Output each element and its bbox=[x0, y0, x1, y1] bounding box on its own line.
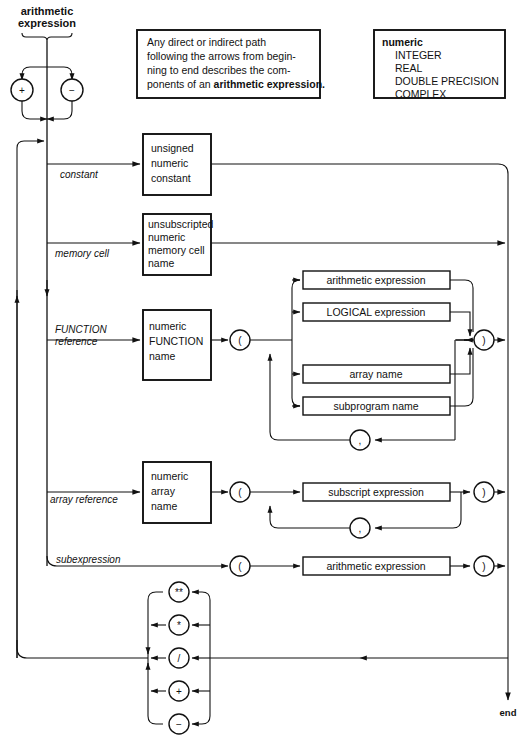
header-group: arithmetic expression bbox=[18, 5, 76, 41]
memory-cell-box-line-3: memory cell bbox=[148, 244, 205, 256]
note-line-4: ponents of an arithmetic expression. bbox=[147, 78, 325, 90]
branch-array-reference: array reference numeric array name ( sub… bbox=[47, 462, 505, 538]
memory-cell-branch-label: memory cell bbox=[55, 248, 110, 259]
memory-cell-box-line-2: numeric bbox=[148, 231, 185, 243]
note-line-2: following the arrows from begin- bbox=[147, 50, 296, 62]
constant-box-line-3: constant bbox=[151, 172, 191, 184]
function-box-line-3: name bbox=[149, 350, 175, 362]
branch-memory-cell: memory cell unsubscripted numeric memory… bbox=[47, 214, 505, 275]
sign-minus-label: − bbox=[69, 85, 75, 96]
note-box: Any direct or indirect path following th… bbox=[137, 30, 325, 98]
array-comma-loop-back bbox=[270, 506, 350, 528]
legend-item-integer: INTEGER bbox=[395, 49, 442, 61]
sign-minus-in-line bbox=[47, 67, 72, 80]
function-branch-label-line1: FUNCTION bbox=[55, 324, 107, 335]
sign-minus-out-line bbox=[47, 101, 72, 119]
subexpression-arithmetic-expression-label: arithmetic expression bbox=[326, 560, 425, 572]
array-box-line-3: name bbox=[151, 500, 177, 512]
sign-plus-in-line bbox=[22, 67, 47, 80]
function-box-line-1: numeric bbox=[149, 320, 186, 332]
operator-bus-bottom-left-curve bbox=[148, 716, 163, 724]
feedback-entry-arrow bbox=[17, 141, 44, 148]
function-arg-label-logical-expression: LOGICAL expression bbox=[327, 306, 426, 318]
note-line-4-plain: ponents of an bbox=[147, 78, 214, 90]
constant-branch-label: constant bbox=[60, 169, 99, 180]
subscript-expression-label: subscript expression bbox=[328, 486, 424, 498]
operator-multiply-label: * bbox=[177, 620, 181, 631]
operator-divide-label: / bbox=[178, 653, 181, 664]
sign-plus-out-line bbox=[22, 101, 47, 119]
branch-constant: constant unsigned numeric constant bbox=[47, 134, 508, 195]
end-group: end bbox=[500, 658, 517, 718]
function-arg-bus-up bbox=[292, 280, 300, 340]
operator-plus-label: + bbox=[176, 686, 182, 697]
function-arg-bus-down bbox=[292, 340, 300, 406]
legend-item-complex: COMPLEX bbox=[395, 88, 446, 100]
note-line-1: Any direct or indirect path bbox=[147, 36, 266, 48]
function-comma-label: , bbox=[359, 435, 362, 446]
subexpression-close-paren-label: ) bbox=[482, 561, 485, 572]
operator-bus-top-left-curve bbox=[148, 592, 163, 600]
function-close-paren-label: ) bbox=[482, 335, 485, 346]
note-line-4-bold: arithmetic expression. bbox=[214, 78, 326, 90]
memory-cell-box-line-4: name bbox=[148, 257, 174, 269]
page-title-line2: expression bbox=[18, 17, 76, 29]
function-arg-label-subprogram-name: subprogram name bbox=[333, 400, 418, 412]
note-line-3: ning to end describes the com- bbox=[147, 64, 291, 76]
function-branch-label-line2: reference bbox=[55, 336, 98, 347]
array-reference-branch-label: array reference bbox=[50, 494, 118, 505]
legend-heading: numeric bbox=[382, 36, 423, 48]
branch-function-reference: FUNCTION reference numeric FUNCTION name… bbox=[47, 271, 505, 450]
operator-power-label: ** bbox=[175, 587, 183, 598]
function-arg-label-arithmetic-expression: arithmetic expression bbox=[326, 274, 425, 286]
function-arg3-out-line bbox=[450, 348, 470, 374]
function-box-line-2: FUNCTION bbox=[149, 335, 203, 347]
numeric-legend-box: numeric INTEGER REAL DOUBLE PRECISION CO… bbox=[374, 30, 505, 100]
array-comma-label: , bbox=[359, 523, 362, 534]
array-box-line-2: array bbox=[151, 485, 176, 497]
array-close-paren-label: ) bbox=[482, 487, 485, 498]
legend-item-double-precision: DOUBLE PRECISION bbox=[395, 75, 499, 87]
constant-out-line bbox=[211, 164, 508, 185]
constant-box-line-2: numeric bbox=[151, 157, 188, 169]
memory-cell-box-line-1: unsubscripted bbox=[148, 218, 214, 230]
array-box-line-1: numeric bbox=[151, 470, 188, 482]
legend-item-real: REAL bbox=[395, 62, 423, 74]
operator-minus-label: − bbox=[176, 719, 182, 730]
operator-bus-top-right-curve bbox=[195, 592, 210, 600]
arithmetic-expression-railroad-diagram: arithmetic expression + − Any direct or … bbox=[0, 0, 524, 741]
operator-bus-bottom-right-curve bbox=[195, 716, 210, 724]
subexpression-branch-label: subexpression bbox=[56, 554, 121, 565]
function-arg-label-array-name: array name bbox=[349, 368, 402, 380]
sign-plus-label: + bbox=[19, 85, 25, 96]
function-arg2-out-line bbox=[450, 312, 470, 336]
constant-box-line-1: unsigned bbox=[151, 142, 194, 154]
page-title-line1: arithmetic bbox=[21, 5, 74, 17]
binary-operator-group: ** * / + − bbox=[17, 582, 508, 734]
title-brace bbox=[22, 33, 72, 41]
end-label: end bbox=[500, 707, 517, 718]
bottom-rail-left-segment bbox=[17, 640, 148, 658]
branch-subexpression: subexpression ( arithmetic expression ) bbox=[47, 554, 505, 576]
